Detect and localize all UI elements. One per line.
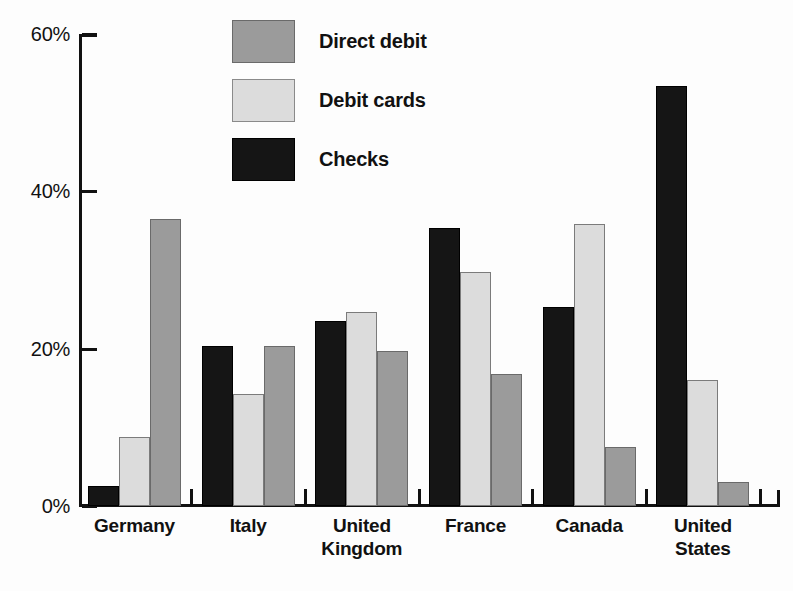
x-axis-category-label-line: Canada [525,514,654,537]
y-axis-tick-label: 60% [0,23,70,46]
x-axis-category-label: UnitedStates [638,514,767,560]
x-axis-group-tick [190,489,193,506]
bar-chart: 0%20%40%60% GermanyItalyUnitedKingdomFra… [0,0,793,591]
y-axis-tick-label: 40% [0,180,70,203]
x-axis-category-label-line: United [297,514,426,537]
bar [315,321,346,506]
x-axis-group-tick [759,489,762,506]
bar-group-bars [543,34,636,506]
bar-group-bars [88,34,181,506]
bar [574,224,605,506]
legend-label-debit-cards: Debit cards [319,89,426,112]
bar [119,437,150,506]
x-axis-category-label-line: France [411,514,540,537]
x-axis-category-label-line: Italy [184,514,313,537]
legend-label-direct-debit: Direct debit [319,30,427,53]
bar [491,374,522,506]
x-axis-category-label-line: Germany [70,514,199,537]
x-axis-category-label-line: States [638,537,767,560]
bar-group [88,34,181,506]
legend-swatch-debit-cards [232,79,295,122]
bar [460,272,491,506]
x-axis-category-label: France [411,514,540,537]
x-axis-group-tick [418,489,421,506]
x-axis-group-tick [304,489,307,506]
bar-group [656,34,749,506]
bar [605,447,636,506]
bar [718,482,749,506]
x-axis-group-tick [531,489,534,506]
bar-group [543,34,636,506]
bar [377,351,408,506]
bar [656,86,687,506]
bar [88,486,119,506]
bar [233,394,264,506]
legend-swatch-direct-debit [232,20,295,63]
y-axis-tick-label: 20% [0,337,70,360]
legend-item-debit-cards: Debit cards [232,77,427,124]
bar [346,312,377,506]
x-axis-category-label: Germany [70,514,199,537]
legend-item-direct-debit: Direct debit [232,18,427,65]
x-axis-category-label: Italy [184,514,313,537]
bar-group-bars [429,34,522,506]
bar [202,346,233,506]
bar-group-bars [656,34,749,506]
chart-legend: Direct debit Debit cards Checks [232,18,427,195]
plot-area [80,34,780,506]
bar-group [429,34,522,506]
legend-label-checks: Checks [319,148,389,171]
legend-swatch-checks [232,138,295,181]
x-axis-category-label: Canada [525,514,654,537]
x-axis-category-label-line: Kingdom [297,537,426,560]
legend-item-checks: Checks [232,136,427,183]
bar [264,346,295,506]
bar [150,219,181,506]
y-axis-tick-label: 0% [0,495,70,518]
x-axis-category-label: UnitedKingdom [297,514,426,560]
x-axis-group-tick [645,489,648,506]
x-axis-category-label-line: United [638,514,767,537]
bar [687,380,718,506]
bar [429,228,460,506]
bar [543,307,574,506]
